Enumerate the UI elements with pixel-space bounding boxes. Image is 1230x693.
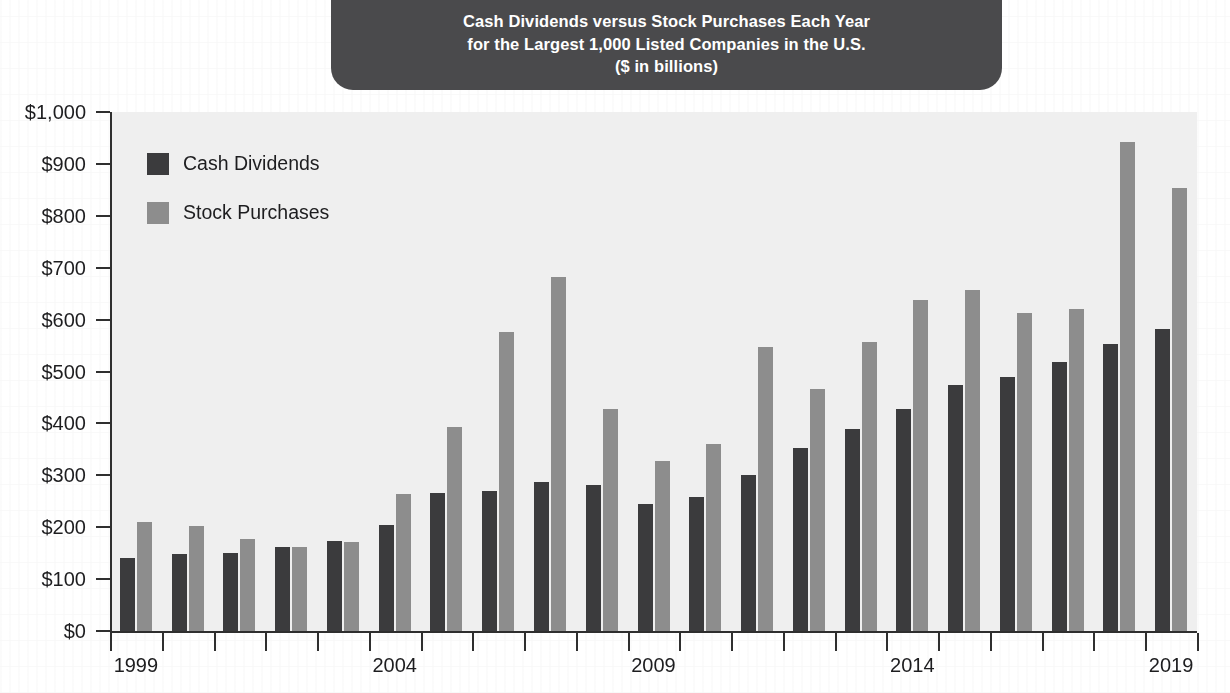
bar-cash-dividends-2000 <box>172 554 187 631</box>
bar-cash-dividends-2008 <box>586 485 601 631</box>
x-axis-tick <box>369 633 371 651</box>
x-axis-tick <box>990 633 992 651</box>
bar-cash-dividends-2010 <box>689 497 704 631</box>
x-axis-tick <box>835 633 837 651</box>
x-axis-tick <box>938 633 940 651</box>
x-axis-tick <box>1197 633 1199 651</box>
chart-title-line-3: ($ in billions) <box>615 55 718 78</box>
y-axis-tick <box>96 526 110 528</box>
bar-stock-purchases-2018 <box>1120 142 1135 631</box>
legend-item-cash-dividends: Cash Dividends <box>147 152 329 175</box>
bar-stock-purchases-2011 <box>758 347 773 631</box>
bar-stock-purchases-2005 <box>447 427 462 631</box>
legend-swatch-stock-purchases <box>147 202 169 224</box>
bar-cash-dividends-2001 <box>223 553 238 631</box>
x-axis-label-2004: 2004 <box>372 654 417 677</box>
bar-stock-purchases-2012 <box>810 389 825 631</box>
x-axis-line <box>110 631 1197 633</box>
y-axis-label: $900 <box>2 152 86 175</box>
bar-cash-dividends-2007 <box>534 482 549 631</box>
x-axis-tick <box>214 633 216 651</box>
x-axis-tick <box>1145 633 1147 651</box>
y-axis-label: $300 <box>2 464 86 487</box>
bar-cash-dividends-1999 <box>120 558 135 631</box>
bar-stock-purchases-2014 <box>913 300 928 631</box>
x-axis-label-2019: 2019 <box>1149 654 1194 677</box>
y-axis-label: $1,000 <box>2 101 86 124</box>
y-axis-label: $800 <box>2 204 86 227</box>
legend-label-cash-dividends: Cash Dividends <box>183 152 320 175</box>
x-axis-tick <box>576 633 578 651</box>
y-axis-tick <box>96 578 110 580</box>
y-axis-line <box>110 112 112 633</box>
bar-stock-purchases-2002 <box>292 547 307 631</box>
bar-cash-dividends-2015 <box>948 385 963 631</box>
bar-cash-dividends-2012 <box>793 448 808 631</box>
x-axis-tick <box>886 633 888 651</box>
y-axis-tick <box>96 319 110 321</box>
bar-stock-purchases-2009 <box>655 461 670 631</box>
x-axis-tick <box>317 633 319 651</box>
x-axis-tick <box>110 633 112 651</box>
chart-legend: Cash Dividends Stock Purchases <box>147 152 329 250</box>
y-axis-tick <box>96 422 110 424</box>
bar-stock-purchases-2019 <box>1172 188 1187 631</box>
x-axis-tick <box>1093 633 1095 651</box>
x-axis-tick <box>472 633 474 651</box>
y-axis-label: $400 <box>2 412 86 435</box>
y-axis-tick <box>96 474 110 476</box>
legend-item-stock-purchases: Stock Purchases <box>147 201 329 224</box>
x-axis-tick <box>265 633 267 651</box>
bar-stock-purchases-2000 <box>189 526 204 631</box>
y-axis-tick <box>96 630 110 632</box>
y-axis-label: $600 <box>2 308 86 331</box>
bar-cash-dividends-2006 <box>482 491 497 631</box>
y-axis-label: $700 <box>2 256 86 279</box>
y-axis-label: $100 <box>2 568 86 591</box>
bar-stock-purchases-2013 <box>862 342 877 631</box>
bar-stock-purchases-2015 <box>965 290 980 632</box>
x-axis-tick <box>1042 633 1044 651</box>
y-axis-tick <box>96 371 110 373</box>
bar-stock-purchases-2001 <box>240 539 255 631</box>
bar-stock-purchases-2017 <box>1069 309 1084 631</box>
x-axis-label-2009: 2009 <box>631 654 676 677</box>
x-axis-tick <box>421 633 423 651</box>
chart-title: Cash Dividends versus Stock Purchases Ea… <box>331 0 1002 90</box>
y-axis-tick <box>96 267 110 269</box>
bar-cash-dividends-2016 <box>1000 377 1015 631</box>
bar-stock-purchases-2016 <box>1017 313 1032 631</box>
bar-cash-dividends-2011 <box>741 475 756 631</box>
bar-cash-dividends-2009 <box>638 504 653 631</box>
x-axis-tick <box>679 633 681 651</box>
bar-stock-purchases-2003 <box>344 542 359 631</box>
bar-stock-purchases-2010 <box>706 444 721 631</box>
bar-cash-dividends-2003 <box>327 541 342 631</box>
bar-cash-dividends-2014 <box>896 409 911 631</box>
bar-cash-dividends-2019 <box>1155 329 1170 631</box>
bar-cash-dividends-2013 <box>845 429 860 631</box>
bar-stock-purchases-2006 <box>499 332 514 631</box>
chart-title-line-2: for the Largest 1,000 Listed Companies i… <box>467 33 865 56</box>
bar-cash-dividends-2005 <box>430 493 445 631</box>
x-axis-label-2014: 2014 <box>890 654 935 677</box>
y-axis-label: $0 <box>2 620 86 643</box>
chart-title-line-1: Cash Dividends versus Stock Purchases Ea… <box>463 10 870 33</box>
y-axis-label: $200 <box>2 516 86 539</box>
y-axis-tick <box>96 111 110 113</box>
x-axis-tick <box>783 633 785 651</box>
bar-stock-purchases-2007 <box>551 277 566 631</box>
y-axis-tick <box>96 215 110 217</box>
x-axis-tick <box>524 633 526 651</box>
bar-cash-dividends-2018 <box>1103 344 1118 631</box>
x-axis-tick <box>628 633 630 651</box>
bar-stock-purchases-2008 <box>603 409 618 631</box>
x-axis-tick <box>162 633 164 651</box>
x-axis-label-1999: 1999 <box>114 654 159 677</box>
legend-swatch-cash-dividends <box>147 153 169 175</box>
y-axis-tick <box>96 163 110 165</box>
y-axis-label: $500 <box>2 360 86 383</box>
legend-label-stock-purchases: Stock Purchases <box>183 201 329 224</box>
bar-cash-dividends-2004 <box>379 525 394 631</box>
bar-cash-dividends-2002 <box>275 547 290 631</box>
